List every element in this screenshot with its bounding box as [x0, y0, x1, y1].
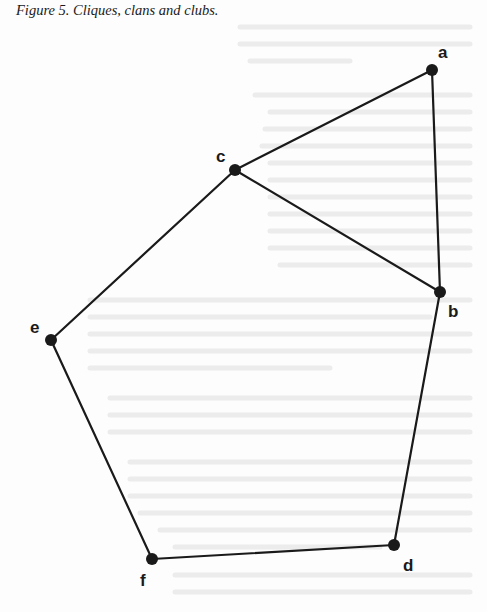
network-diagram: abcdef [0, 0, 487, 612]
node-a [426, 64, 438, 76]
edge-f-d [152, 545, 394, 559]
node-label-c: c [216, 147, 225, 166]
node-label-f: f [140, 571, 146, 590]
node-label-b: b [448, 302, 458, 321]
node-d [388, 539, 400, 551]
graph-nodes [45, 64, 446, 565]
node-e [45, 334, 57, 346]
node-c [229, 164, 241, 176]
figure-caption: Figure 5. Cliques, clans and clubs. [16, 2, 218, 19]
edge-a-c [235, 70, 432, 170]
edge-a-b [432, 70, 440, 292]
graph-edges [51, 70, 440, 559]
node-label-a: a [438, 43, 448, 62]
node-f [146, 553, 158, 565]
node-label-d: d [403, 556, 413, 575]
edge-e-f [51, 340, 152, 559]
node-label-e: e [30, 318, 39, 337]
edge-c-b [235, 170, 440, 292]
edge-c-e [51, 170, 235, 340]
edge-d-b [394, 292, 440, 545]
graph-node-labels: abcdef [30, 43, 458, 590]
node-b [434, 286, 446, 298]
